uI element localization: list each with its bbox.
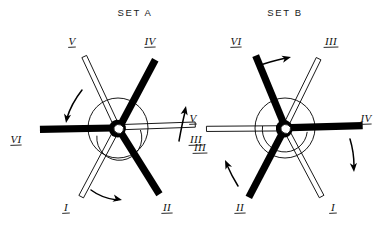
- spoke-label-ii: II: [162, 201, 172, 213]
- hub-knot-hole: [114, 124, 124, 133]
- spoke-label-vi: VI: [231, 35, 243, 47]
- spoke-label-iv: IV: [144, 35, 157, 47]
- rod-solid[interactable]: [40, 128, 113, 129]
- rod-hollow-edge-b[interactable]: [207, 131, 281, 132]
- rod-solid[interactable]: [291, 126, 363, 128]
- spoke-label-iv: IV: [360, 112, 373, 124]
- hub-knot-hole: [281, 124, 291, 133]
- rod-hollow-edge-a[interactable]: [206, 126, 280, 127]
- spoke-label-vi: VI: [11, 133, 23, 145]
- arrow-label-v: V: [189, 112, 197, 124]
- set-title: SET A: [118, 7, 153, 18]
- spoke-label-iii: III: [189, 133, 203, 145]
- spoke-diagram: SET AVIVIIIIIIVIVSET BVIIIIIVIIIIII: [0, 0, 391, 228]
- spoke-label-ii: II: [235, 201, 245, 213]
- spoke-label-v: V: [68, 35, 76, 47]
- figure-root: SET AVIVIIIIIIVIVSET BVIIIIIVIIIIII: [0, 0, 391, 228]
- set-title: SET B: [267, 7, 302, 18]
- spoke-label-iii: III: [324, 35, 338, 47]
